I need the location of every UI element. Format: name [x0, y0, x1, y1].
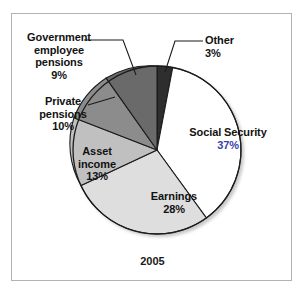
- label-line-1: Asset: [82, 145, 111, 157]
- label-line-3: pensions: [35, 56, 83, 68]
- label-line-1: Social Security: [189, 126, 266, 138]
- chart-year-label: 2005: [0, 255, 305, 267]
- label-line-2: income: [78, 158, 116, 170]
- slice-label-asset-income: Asset income 13%: [66, 145, 128, 183]
- label-line-1: Earnings: [151, 190, 197, 202]
- label-percent: 28%: [138, 203, 210, 216]
- label-line-2: employee: [34, 44, 84, 56]
- label-percent: 13%: [66, 170, 128, 183]
- slice-label-government-employee-pensions: Government employee pensions 9%: [13, 31, 105, 81]
- slice-label-social-security: Social Security 37%: [176, 126, 280, 151]
- label-percent: 37%: [176, 139, 280, 152]
- label-line-2: pensions: [39, 108, 87, 120]
- label-percent: 9%: [13, 69, 105, 82]
- label-line-1: Government: [27, 31, 91, 43]
- slice-label-other: Other 3%: [205, 34, 275, 59]
- slice-label-private-pensions: Private pensions 10%: [23, 95, 103, 133]
- label-line-1: Other: [205, 34, 234, 46]
- slice-label-earnings: Earnings 28%: [138, 190, 210, 215]
- label-percent: 3%: [205, 47, 275, 60]
- pie-chart-figure: Government employee pensions 9% Private …: [0, 0, 305, 296]
- label-line-1: Private: [45, 95, 81, 107]
- label-percent: 10%: [23, 120, 103, 133]
